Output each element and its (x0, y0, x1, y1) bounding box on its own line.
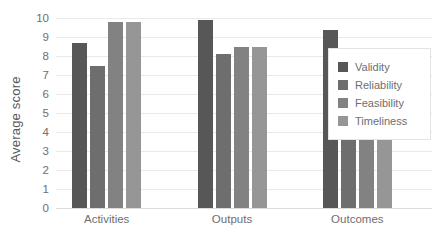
bar (216, 54, 231, 208)
gridline (56, 18, 432, 19)
legend-label: Validity (355, 61, 390, 73)
legend-swatch-icon (338, 80, 348, 90)
legend-swatch-icon (338, 116, 348, 126)
bar (234, 47, 249, 209)
y-axis-tick-label: 0 (43, 202, 49, 214)
legend-item: Feasibility (338, 94, 422, 112)
gridline (56, 208, 432, 209)
y-axis-tick-label: 4 (43, 126, 49, 138)
legend-label: Feasibility (355, 97, 404, 109)
legend-item: Timeliness (338, 112, 422, 130)
x-axis-category-label: Outcomes (331, 213, 383, 225)
legend-swatch-icon (338, 62, 348, 72)
bar (198, 20, 213, 208)
x-axis-category-label: Outputs (212, 213, 252, 225)
bar (108, 22, 123, 208)
y-axis-tick-label: 10 (36, 12, 49, 24)
y-axis-tick-label: 8 (43, 50, 49, 62)
bar-chart: Average score 012345678910 ActivitiesOut… (0, 0, 438, 239)
legend-item: Validity (338, 58, 422, 76)
y-axis-tick-label: 6 (43, 88, 49, 100)
y-axis-title: Average score (0, 0, 30, 239)
y-axis-tick-label: 9 (43, 31, 49, 43)
legend-swatch-icon (338, 98, 348, 108)
y-axis-tick-label: 1 (43, 183, 49, 195)
y-axis-tick-label: 3 (43, 145, 49, 157)
bar (90, 66, 105, 209)
y-axis-tick-label: 5 (43, 107, 49, 119)
bar (126, 22, 141, 208)
legend-label: Timeliness (355, 115, 407, 127)
legend-label: Reliability (355, 79, 402, 91)
bar (72, 43, 87, 208)
legend: ValidityReliabilityFeasibilityTimeliness (328, 48, 431, 140)
legend-item: Reliability (338, 76, 422, 94)
x-axis-category-label: Activities (84, 213, 129, 225)
y-axis-tick-label: 2 (43, 164, 49, 176)
y-axis-tick-label: 7 (43, 69, 49, 81)
bar (252, 47, 267, 209)
